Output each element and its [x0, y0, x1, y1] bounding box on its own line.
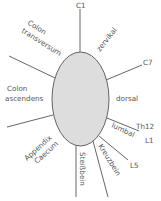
label-dorsal: dorsal: [116, 94, 138, 103]
label-c7: C7: [143, 58, 153, 67]
label-kreuzbein: Kreuzbein: [96, 142, 123, 177]
label-colon-ascendens-1: Colon: [7, 84, 27, 93]
label-colon-ascendens-2: ascendens: [5, 94, 44, 103]
label-th12: Th12: [135, 122, 154, 131]
label-l5: L5: [130, 161, 139, 170]
upper-left-line: [9, 56, 55, 78]
label-steissbein: Steißbein: [78, 152, 87, 186]
central-ellipse: [52, 52, 109, 146]
label-l1: L1: [145, 136, 154, 145]
label-c1: C1: [76, 1, 86, 10]
lower-left-line: [7, 115, 53, 127]
label-lumbal: lumbal: [110, 121, 136, 140]
label-zervikal: zervikal: [94, 26, 118, 53]
spine-colon-diagram: C1 zervikal C7 dorsal Th12 L1 lumbal L5 …: [0, 0, 161, 201]
c7-line: [106, 65, 142, 80]
